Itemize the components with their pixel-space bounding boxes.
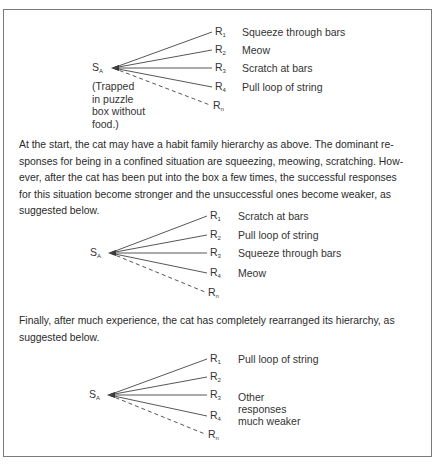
response-label: R1 <box>215 25 226 41</box>
response-text: Squeeze through bars <box>238 247 341 259</box>
response-label: Rn <box>208 286 219 302</box>
stimulus-note: (Trapped in puzzle box without food.) <box>92 80 145 130</box>
response-label: R2 <box>210 228 221 244</box>
response-text: Pull loop of string <box>238 353 319 365</box>
habit-hierarchy-after-few-trials: SA R1 R2 R3 R4 Rn Scratch at bars Pull l… <box>0 200 442 305</box>
other-responses-note: Other responses much weaker <box>238 391 300 427</box>
habit-hierarchy-initial: SA (Trapped in puzzle box without food.)… <box>0 0 442 130</box>
diagram-lines <box>0 200 442 305</box>
habit-hierarchy-rearranged: SA R1 R2 R3 R4 Rn Pull loop of string Ot… <box>0 345 442 450</box>
response-label: R3 <box>215 61 226 77</box>
response-text: Meow <box>238 267 266 279</box>
diagram-lines <box>0 345 442 450</box>
response-label: Rn <box>213 99 224 115</box>
stimulus-label: SA <box>90 246 101 262</box>
response-label: R2 <box>210 370 221 386</box>
response-label: R4 <box>210 409 221 425</box>
response-label: R3 <box>210 246 221 262</box>
response-label: Rn <box>208 428 219 444</box>
stimulus-label: SA <box>89 388 100 404</box>
response-label: R1 <box>210 209 221 225</box>
response-text: Pull loop of string <box>242 81 323 93</box>
response-text: Meow <box>242 44 270 56</box>
explanation-paragraph-2: Finally, after much experience, the cat … <box>19 313 424 346</box>
response-label: R4 <box>210 266 221 282</box>
response-label: R3 <box>210 388 221 404</box>
response-label: R2 <box>215 43 226 59</box>
response-text: Squeeze through bars <box>242 26 345 38</box>
response-text: Pull loop of string <box>238 229 319 241</box>
stimulus-label: SA <box>92 61 103 77</box>
response-label: R1 <box>210 352 221 368</box>
response-text: Scratch at bars <box>242 62 313 74</box>
response-text: Scratch at bars <box>238 210 309 222</box>
response-label: R4 <box>215 80 226 96</box>
